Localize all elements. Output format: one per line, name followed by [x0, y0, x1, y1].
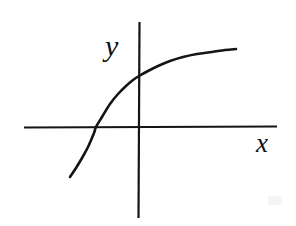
y-axis-line [139, 22, 140, 218]
figure-container: y x [0, 0, 296, 226]
scan-artifact [268, 196, 282, 205]
x-axis-line [24, 127, 277, 128]
x-axis-label: x [256, 130, 268, 157]
plot-canvas [0, 0, 296, 226]
y-axis-label: y [105, 31, 118, 61]
plot-background [0, 0, 296, 226]
